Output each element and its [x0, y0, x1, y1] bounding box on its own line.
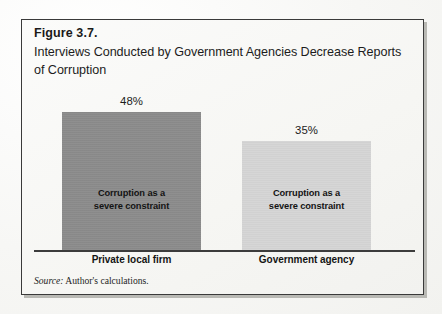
- category-label-government-agency: Government agency: [242, 254, 371, 265]
- bar-government-agency[interactable]: 35% Corruption as a severe constraint: [242, 141, 371, 250]
- bar-fill-private: [62, 112, 201, 250]
- bar-inner-label-private-line1: Corruption as a: [62, 187, 201, 200]
- bar-inner-label-government-line1: Corruption as a: [242, 187, 371, 200]
- bar-value-private: 48%: [62, 95, 201, 107]
- bar-inner-label-government: Corruption as a severe constraint: [242, 187, 371, 212]
- source-label: Source:: [34, 275, 63, 286]
- bar-inner-label-private-line2: severe constraint: [62, 200, 201, 213]
- figure-frame: Figure 3.7. Interviews Conducted by Gove…: [21, 19, 424, 295]
- source-note: Source: Author's calculations.: [34, 275, 149, 286]
- category-label-private-local-firm: Private local firm: [62, 254, 201, 265]
- bar-value-government: 35%: [242, 124, 371, 136]
- chart-plot-area: 48% Corruption as a severe constraint 35…: [22, 20, 425, 296]
- bar-inner-label-private: Corruption as a severe constraint: [62, 187, 201, 212]
- figure-root: Figure 3.7. Interviews Conducted by Gove…: [0, 0, 442, 314]
- source-text: Author's calculations.: [65, 275, 148, 286]
- bar-inner-label-government-line2: severe constraint: [242, 200, 371, 213]
- bar-private-local-firm[interactable]: 48% Corruption as a severe constraint: [62, 112, 201, 250]
- chart-axis-baseline: [34, 250, 415, 252]
